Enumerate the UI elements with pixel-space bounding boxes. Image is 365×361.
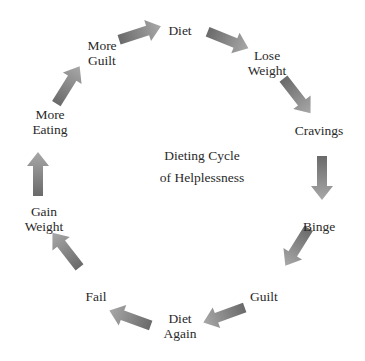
node-binge: Binge (303, 219, 335, 234)
arrow-diet-again-to-fail (106, 300, 155, 336)
node-gain-weight: Gain Weight (25, 204, 64, 234)
node-diet: Diet (168, 23, 191, 38)
node-lose-weight: Lose Weight (248, 48, 287, 78)
arrow-lose-weight-to-cravings (275, 72, 319, 120)
dieting-cycle-diagram: Diet Lose Weight Cravings Binge Guilt Di… (0, 0, 365, 361)
node-cravings: Cravings (295, 123, 344, 138)
node-more-eating: More Eating (32, 107, 67, 137)
diagram-title: Dieting Cycle of Helplessness (160, 145, 244, 189)
node-guilt: Guilt (250, 289, 278, 304)
arrow-more-eating-to-more-guilt (47, 61, 89, 110)
arrow-cravings-to-binge (311, 156, 333, 200)
arrow-guilt-to-diet-again (200, 297, 249, 333)
arrow-more-guilt-to-diet (116, 16, 165, 51)
arrow-gain-weight-to-more-eating (27, 152, 49, 196)
node-diet-again: Diet Again (164, 311, 197, 341)
node-fail: Fail (85, 289, 106, 304)
arrow-diet-to-lose-weight (203, 22, 252, 59)
node-more-guilt: More Guilt (87, 38, 116, 68)
